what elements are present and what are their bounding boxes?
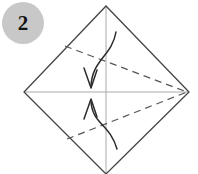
- center-guide-lines: [25, 6, 188, 174]
- step-number-label: 2: [18, 13, 29, 34]
- upper-crease-line: [65, 46, 187, 92]
- fold-arrows: [84, 32, 117, 149]
- lower-fold-arrow-icon: [84, 99, 117, 149]
- upper-fold-arrow-icon: [84, 32, 116, 88]
- origami-step-figure: 2: [0, 0, 198, 174]
- step-number-badge: 2: [2, 2, 44, 44]
